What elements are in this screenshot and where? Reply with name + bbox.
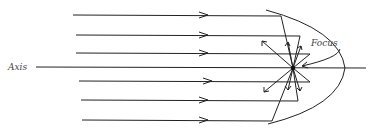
diverging-arrows — [262, 41, 302, 92]
ray-6 — [82, 120, 272, 121]
axis-line — [36, 67, 366, 68]
focus-pointer — [302, 49, 340, 66]
ray-2 — [76, 35, 300, 36]
axis-label: Axis — [7, 62, 27, 72]
focus-label: Focus — [310, 38, 338, 48]
ray-4 — [79, 81, 310, 82]
focus-point — [291, 66, 295, 70]
ray-5 — [81, 100, 298, 101]
ray-3 — [76, 53, 310, 54]
ray-1 — [73, 15, 281, 16]
